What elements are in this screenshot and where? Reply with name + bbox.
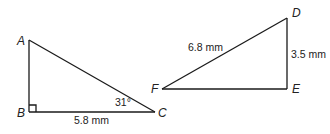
angle-c-label: 31° <box>115 96 131 108</box>
vertex-label-c: C <box>158 106 167 120</box>
side-df <box>162 18 287 89</box>
side-de-measure: 3.5 mm <box>291 48 326 60</box>
side-ac <box>29 40 155 112</box>
vertex-label-d: D <box>292 6 301 20</box>
right-angle-marker-icon <box>29 105 36 112</box>
side-df-measure: 6.8 mm <box>188 41 223 53</box>
triangle-def: D E F 6.8 mm 3.5 mm <box>151 6 326 96</box>
diagram-canvas: A B C 31° 5.8 mm D E F 6.8 mm 3.5 mm <box>0 0 330 134</box>
vertex-label-e: E <box>292 82 301 96</box>
triangle-abc: A B C 31° 5.8 mm <box>16 34 167 126</box>
vertex-label-f: F <box>151 82 159 96</box>
vertex-label-a: A <box>16 34 25 48</box>
vertex-label-b: B <box>17 106 25 120</box>
side-bc-measure: 5.8 mm <box>74 114 109 126</box>
